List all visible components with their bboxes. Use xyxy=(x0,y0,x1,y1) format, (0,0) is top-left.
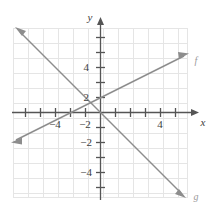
x-axis-arrow xyxy=(191,109,199,116)
x-tick-label-pos4: 4 xyxy=(157,118,163,130)
axes xyxy=(12,22,193,200)
x-tick-label-neg4: −4 xyxy=(49,118,61,130)
graph-svg: −4 −2 4 4 2 −2 −4 x y f g xyxy=(0,0,213,216)
curve-label-f: f xyxy=(195,55,199,66)
y-axis-label: y xyxy=(87,11,93,23)
y-tick-label-pos4: 4 xyxy=(84,61,90,73)
y-tick-label-pos2: 2 xyxy=(84,91,90,103)
line-f-arrow-start xyxy=(11,138,22,145)
y-tick-label-neg2: −2 xyxy=(80,136,92,148)
y-axis-arrow xyxy=(97,17,104,25)
curve-label-g: g xyxy=(194,191,199,202)
coordinate-plane-figure: −4 −2 4 4 2 −2 −4 x y f g xyxy=(0,0,213,216)
x-axis-label: x xyxy=(200,116,206,128)
x-tick-label-neg2: −2 xyxy=(79,118,91,130)
y-tick-label-neg4: −4 xyxy=(80,166,92,178)
